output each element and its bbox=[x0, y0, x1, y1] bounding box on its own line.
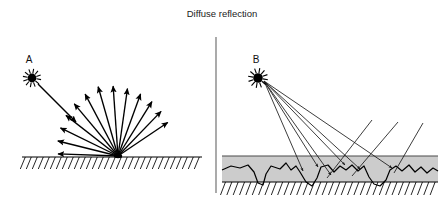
burst-spike bbox=[29, 69, 31, 73]
burst-spike bbox=[255, 69, 257, 74]
hatch-stroke bbox=[297, 182, 302, 195]
hatch-stroke bbox=[26, 157, 31, 169]
hatch-stroke bbox=[227, 182, 232, 195]
burst-spike bbox=[248, 76, 253, 77]
hatch-stroke bbox=[110, 157, 115, 169]
hatch-stroke bbox=[328, 182, 333, 195]
hatch-stroke bbox=[140, 157, 145, 169]
hatch-stroke bbox=[44, 157, 49, 169]
hatch-stroke bbox=[303, 182, 308, 195]
source-label-a: A bbox=[26, 54, 33, 65]
hatch-stroke bbox=[20, 157, 25, 169]
incident-ray bbox=[264, 81, 345, 165]
burst-spike bbox=[36, 81, 40, 84]
hatch-stroke bbox=[360, 182, 365, 195]
hatch-stroke bbox=[176, 157, 181, 169]
scattered-ray-arrow bbox=[118, 111, 161, 156]
hatch-stroke bbox=[158, 157, 163, 169]
hatch-stroke bbox=[56, 157, 61, 169]
hatch-stroke bbox=[122, 157, 127, 169]
hatch-stroke bbox=[246, 182, 251, 195]
scatter-origin-point bbox=[114, 154, 122, 158]
scattered-ray-arrow bbox=[85, 94, 118, 156]
scattered-ray-fan bbox=[58, 86, 168, 158]
hatch-stroke bbox=[146, 157, 151, 169]
burst-spike bbox=[260, 83, 262, 88]
hatch-stroke bbox=[188, 157, 193, 169]
page-title: Diffuse reflection bbox=[187, 8, 258, 19]
burst-spike bbox=[23, 76, 28, 77]
burst-spike bbox=[263, 79, 268, 80]
hatch-stroke bbox=[430, 182, 435, 195]
burst-spike bbox=[33, 69, 34, 74]
burst-spike bbox=[34, 82, 36, 86]
hatch-stroke bbox=[278, 182, 283, 195]
burst-spike bbox=[30, 83, 31, 88]
hatch-stroke bbox=[50, 157, 55, 169]
hatch-stroke bbox=[424, 182, 429, 195]
burst-spike bbox=[259, 68, 260, 73]
scattered-ray-arrow bbox=[74, 104, 118, 156]
hatch-stroke bbox=[74, 157, 79, 169]
burst-spike bbox=[250, 72, 254, 75]
hatch-stroke bbox=[116, 157, 121, 169]
scattered-ray-arrow bbox=[60, 128, 118, 156]
hatch-stroke bbox=[335, 182, 340, 195]
figure-canvas: Diffuse reflection A bbox=[0, 0, 444, 206]
hatch-stroke bbox=[405, 182, 410, 195]
hatch-stroke bbox=[316, 182, 321, 195]
rough-material-band bbox=[222, 156, 438, 182]
hatch-stroke bbox=[104, 157, 109, 169]
burst-spike bbox=[35, 71, 38, 75]
incident-ray bbox=[264, 81, 318, 167]
light-source-b bbox=[248, 68, 268, 88]
hatch-stroke bbox=[80, 157, 85, 169]
hatch-stroke bbox=[92, 157, 97, 169]
hatch-stroke bbox=[341, 182, 346, 195]
hatch-stroke bbox=[86, 157, 91, 169]
light-source-core bbox=[28, 74, 37, 83]
scattered-ray-arrow bbox=[118, 89, 127, 156]
hatch-stroke bbox=[417, 182, 422, 195]
hatch-stroke bbox=[348, 182, 353, 195]
hatched-ground-line bbox=[20, 157, 202, 169]
hatch-stroke bbox=[265, 182, 270, 195]
burst-spike bbox=[37, 79, 42, 80]
diffuse-reflection-figure: Diffuse reflection A bbox=[0, 0, 444, 206]
hatch-stroke bbox=[233, 182, 238, 195]
hatch-stroke bbox=[398, 182, 403, 195]
smooth-surface-panel: A bbox=[20, 54, 202, 169]
hatch-stroke bbox=[271, 182, 276, 195]
hatch-stroke bbox=[98, 157, 103, 169]
hatch-stroke bbox=[182, 157, 187, 169]
burst-spike bbox=[23, 80, 27, 82]
ground-hatching bbox=[220, 182, 435, 195]
burst-spike bbox=[261, 70, 264, 74]
hatch-stroke bbox=[128, 157, 133, 169]
hatch-stroke bbox=[411, 182, 416, 195]
hatch-stroke bbox=[220, 182, 225, 195]
hatch-stroke bbox=[164, 157, 169, 169]
hatch-stroke bbox=[354, 182, 359, 195]
burst-spike bbox=[36, 75, 40, 77]
hatch-stroke bbox=[240, 182, 245, 195]
burst-spike bbox=[26, 82, 29, 86]
burst-spike bbox=[249, 80, 254, 82]
burst-spike bbox=[25, 72, 29, 75]
hatch-stroke bbox=[68, 157, 73, 169]
hatch-stroke bbox=[38, 157, 43, 169]
hatch-stroke bbox=[290, 182, 295, 195]
hatch-stroke bbox=[194, 157, 199, 169]
source-label-b: B bbox=[253, 54, 260, 65]
hatch-stroke bbox=[322, 182, 327, 195]
hatched-ground-line bbox=[220, 182, 438, 195]
ground-hatching bbox=[20, 157, 199, 169]
hatch-stroke bbox=[367, 182, 372, 195]
light-source-core bbox=[253, 73, 263, 83]
burst-spike bbox=[263, 75, 268, 77]
hatch-stroke bbox=[386, 182, 391, 195]
hatch-stroke bbox=[134, 157, 139, 169]
hatch-stroke bbox=[252, 182, 257, 195]
incident-ray-arrow bbox=[38, 84, 76, 122]
burst-spike bbox=[256, 83, 257, 88]
